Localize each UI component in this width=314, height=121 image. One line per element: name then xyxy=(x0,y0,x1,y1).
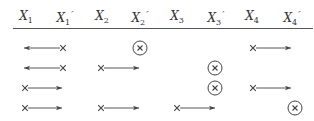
right-arrow-icon xyxy=(22,85,62,91)
right-arrow-icon xyxy=(98,65,139,71)
right-arrow-icon xyxy=(174,105,215,111)
right-arrow-icon xyxy=(98,105,139,111)
right-arrow-icon xyxy=(22,105,62,111)
left-arrow-icon xyxy=(24,45,66,51)
circled-x-icon xyxy=(208,81,222,95)
right-arrow-icon xyxy=(250,45,291,51)
circled-x-icon xyxy=(133,41,147,55)
marks-layer xyxy=(0,0,314,121)
circled-x-icon xyxy=(208,61,222,75)
direction-diagram: X1X1′X2X2′X3X3′X4X4′ xyxy=(0,0,314,121)
left-arrow-icon xyxy=(24,65,66,71)
right-arrow-icon xyxy=(250,85,291,91)
circled-x-icon xyxy=(288,101,302,115)
